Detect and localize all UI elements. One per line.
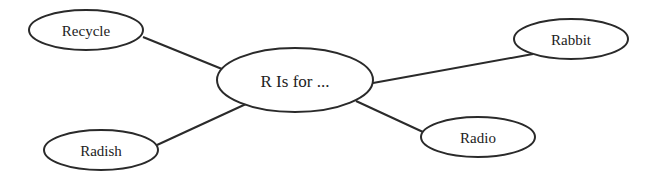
concept-map: R Is for ... Recycle Rabbit Radio Radish	[0, 0, 656, 180]
radio-label: Radio	[460, 130, 496, 146]
recycle-label: Recycle	[62, 23, 111, 39]
edge-rabbit-to-center	[373, 54, 533, 83]
nodes: R Is for ... Recycle Rabbit Radio Radish	[29, 10, 628, 170]
node-recycle: Recycle	[29, 10, 143, 50]
radish-label: Radish	[80, 143, 122, 159]
center-label: R Is for ...	[261, 72, 330, 91]
node-radio: Radio	[421, 117, 535, 157]
node-center: R Is for ...	[217, 48, 373, 112]
edge-radish-to-center	[157, 104, 246, 145]
edge-radio-to-center	[356, 101, 423, 132]
node-rabbit: Rabbit	[514, 19, 628, 59]
rabbit-label: Rabbit	[551, 32, 592, 48]
node-radish: Radish	[44, 130, 158, 170]
edge-recycle-to-center	[143, 37, 222, 69]
